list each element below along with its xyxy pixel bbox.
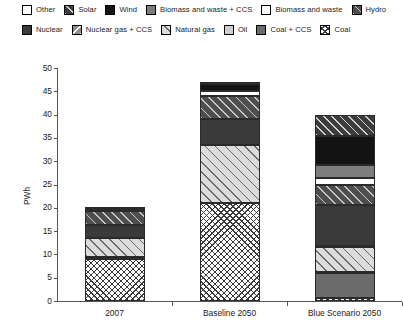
y-axis-tick-mark (54, 68, 57, 69)
y-axis-tick-mark (54, 278, 57, 279)
bar-segment-wind (200, 84, 260, 91)
bar-segment-coal (200, 203, 260, 301)
bar-segment-wind (315, 136, 375, 165)
bar-segment-biomass-and-waste (200, 91, 260, 96)
x-axis-line (57, 301, 402, 302)
x-axis-tick-mark (172, 302, 173, 306)
bar-baseline-2050[interactable] (200, 82, 260, 301)
bar-segment-natural-gas (85, 238, 145, 258)
bar-segment-hydro (85, 211, 145, 225)
y-axis-tick-label: 50 (30, 64, 52, 72)
x-axis-tick-mark (287, 302, 288, 306)
y-axis-line (57, 68, 58, 302)
bar-2007[interactable] (85, 208, 145, 301)
y-axis-tick-label: 20 (30, 203, 52, 211)
bar-segment-nuclear (200, 119, 260, 145)
bar-segment-coal-ccs (315, 273, 375, 298)
bar-segment-wind (85, 207, 145, 209)
y-axis-tick-label: 15 (30, 227, 52, 235)
chart-plot-area: PWh 05101520253035404550 2007Baseline 20… (0, 0, 403, 330)
y-axis-title: PWh (22, 187, 32, 205)
bar-segment-hydro (315, 185, 375, 205)
bar-segment-biomass-and-waste-ccs (315, 165, 375, 178)
y-axis-tick-mark (54, 138, 57, 139)
bar-segment-nuclear (85, 225, 145, 238)
y-axis-tick-label: 0 (30, 297, 52, 305)
bar-blue-scenario-2050[interactable] (315, 115, 375, 301)
y-axis-tick-label: 10 (30, 250, 52, 258)
y-axis-tick-mark (54, 254, 57, 255)
bar-segment-solar (200, 82, 260, 84)
y-axis-tick-mark (54, 91, 57, 92)
y-axis-tick-label: 25 (30, 180, 52, 188)
y-axis-tick-label: 30 (30, 157, 52, 165)
bar-segment-natural-gas (200, 145, 260, 203)
x-axis-tick-label: Baseline 2050 (170, 309, 290, 317)
bar-segment-nuclear-gas-ccs (315, 245, 375, 247)
y-axis-tick-label: 40 (30, 110, 52, 118)
bar-segment-biomass-and-waste (85, 209, 145, 211)
y-axis-tick-mark (54, 208, 57, 209)
bar-segment-hydro (200, 96, 260, 119)
y-axis-tick-mark (54, 185, 57, 186)
y-axis-tick-label: 5 (30, 273, 52, 281)
bar-segment-coal (85, 259, 145, 301)
bar-segment-natural-gas (315, 247, 375, 271)
y-axis-tick-label: 35 (30, 133, 52, 141)
y-axis-tick-mark (54, 115, 57, 116)
y-axis-tick-mark (54, 231, 57, 232)
bar-segment-oil (85, 257, 145, 259)
bar-segment-nuclear (315, 205, 375, 246)
x-axis-tick-label: 2007 (55, 309, 175, 317)
bar-segment-biomass-and-waste (315, 178, 375, 185)
y-axis-tick-mark (54, 161, 57, 162)
bar-segment-coal (315, 298, 375, 301)
y-axis-tick-label: 45 (30, 87, 52, 95)
bar-segment-solar (315, 115, 375, 136)
y-axis-tick-mark (54, 301, 57, 302)
x-axis-tick-label: Blue Scenario 2050 (285, 309, 403, 317)
